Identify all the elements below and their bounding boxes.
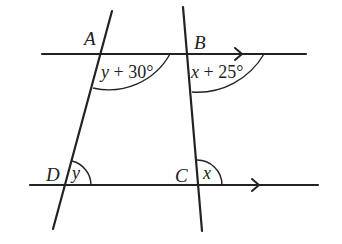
left-transversal [53,11,112,229]
angle-label-d: y [70,163,80,183]
angle-d-variable: y [70,163,80,183]
angle-c-variable: x [202,163,211,183]
angle-label-c: x [202,163,211,183]
angle-b-variable: x [190,62,199,82]
point-label-b: B [194,32,206,53]
angle-label-b: x + 25° [190,62,243,82]
angle-a-variable: y [99,62,109,82]
point-label-a: A [82,28,96,49]
point-label-d: D [45,164,60,185]
angle-a-offset: + 30° [109,62,153,82]
point-label-c: C [175,165,188,186]
angle-label-a: y + 30° [99,62,153,82]
parallel-lines-diagram: A B D C y + 30° x + 25° y x [0,0,342,244]
angle-b-offset: + 25° [199,62,243,82]
